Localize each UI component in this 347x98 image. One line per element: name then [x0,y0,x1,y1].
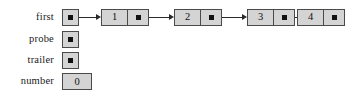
arrow-node-2-to-node-3 [222,13,247,22]
variable-box-number: 0 [62,73,92,90]
pointer-dot-icon [68,37,73,42]
node-value-cell: 1 [102,10,128,25]
list-node-3: 3 [247,9,295,26]
node-next-cell [128,10,148,25]
variable-label-number: number [2,75,54,86]
variable-box-trailer [62,52,79,69]
variable-label-probe: probe [8,33,54,44]
node-next-cell [201,10,221,25]
variable-label-first: first [8,11,54,22]
pointer-dot-icon [209,15,214,20]
variable-label-trailer: trailer [8,54,54,65]
list-node-1: 1 [101,9,149,26]
variable-box-probe [62,31,79,48]
linked-list-diagram: first 1 2 3 [0,0,347,98]
arrow-node-1-to-node-2 [149,13,174,22]
list-node-4: 4 [297,9,345,26]
arrow-first-to-node-1 [79,13,101,22]
pointer-dot-icon [68,15,73,20]
pointer-dot-icon [68,58,73,63]
node-value-cell: 3 [248,10,274,25]
pointer-dot-icon [136,15,141,20]
node-next-cell [274,10,294,25]
node-value-cell: 2 [175,10,201,25]
variable-box-first [62,9,79,26]
pointer-dot-icon [332,15,337,20]
pointer-dot-icon [282,15,287,20]
node-next-cell [324,10,344,25]
node-value-cell: 4 [298,10,324,25]
list-node-2: 2 [174,9,222,26]
